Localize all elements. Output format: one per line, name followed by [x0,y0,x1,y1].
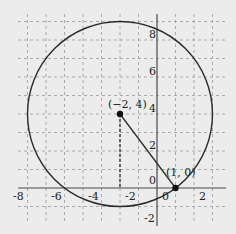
y-tick-label: 2 [149,139,156,152]
center-point-label: (−2, 4) [108,98,147,111]
circle-point [172,185,178,191]
coordinate-plane: (−2, 4) (1, 0) -8 -6 -4 -2 0 2 8 6 4 2 0… [0,0,236,234]
x-tick-label: 0 [162,190,169,203]
x-tick-label: -4 [88,190,99,203]
y-axis-labels: 8 6 4 2 0 -2 [144,28,156,225]
y-tick-label: 6 [149,65,156,78]
center-point [117,111,123,117]
y-tick-label: 4 [149,102,156,115]
circle-point-label: (1, 0) [166,166,196,179]
x-tick-label: -2 [125,190,136,203]
x-tick-label: 2 [199,190,206,203]
y-tick-label: 0 [149,174,156,187]
x-tick-label: -6 [51,190,62,203]
y-tick-label: -2 [144,212,155,225]
x-tick-label: -8 [13,190,24,203]
y-tick-label: 8 [149,28,156,41]
grid [18,14,226,224]
x-axis-labels: -8 -6 -4 -2 0 2 [13,190,206,203]
